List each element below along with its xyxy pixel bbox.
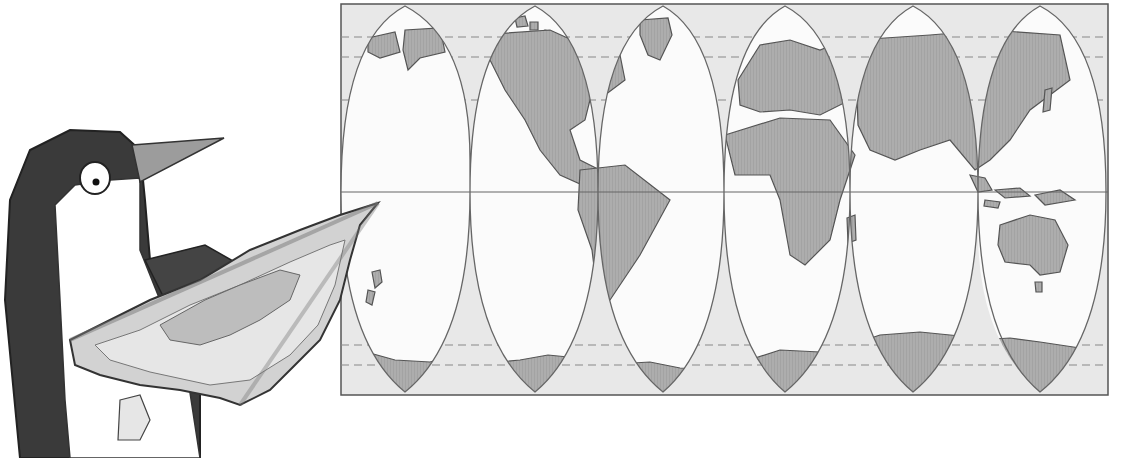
penguin-pupil	[93, 179, 100, 186]
scene-svg	[0, 0, 1125, 458]
illustration	[0, 0, 1125, 458]
penguin-beak	[132, 138, 224, 182]
penguin-eye	[80, 162, 110, 194]
world-map	[341, 4, 1108, 395]
